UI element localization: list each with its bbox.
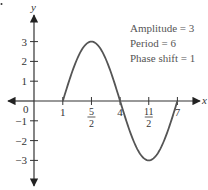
y-axis-label: y (30, 1, 36, 13)
svg-text:−1: −1 (15, 115, 27, 127)
corner-dot (1, 3, 3, 5)
svg-text:5: 5 (89, 106, 94, 117)
svg-text:3: 3 (22, 36, 28, 48)
svg-text:2: 2 (146, 118, 151, 129)
svg-text:−2: −2 (15, 135, 27, 147)
svg-text:1: 1 (22, 75, 28, 87)
annotation-period: Period = 6 (130, 35, 176, 51)
origin-label: 0 (23, 103, 29, 115)
svg-text:2: 2 (22, 55, 28, 67)
annotation-phase-shift: Phase shift = 1 (130, 50, 195, 66)
annotation-amplitude: Amplitude = 3 (130, 20, 194, 36)
svg-text:11: 11 (144, 106, 154, 117)
x-axis-label: x (201, 94, 207, 106)
svg-text:1: 1 (60, 106, 66, 118)
svg-text:2: 2 (89, 118, 94, 129)
svg-text:−3: −3 (15, 154, 27, 166)
